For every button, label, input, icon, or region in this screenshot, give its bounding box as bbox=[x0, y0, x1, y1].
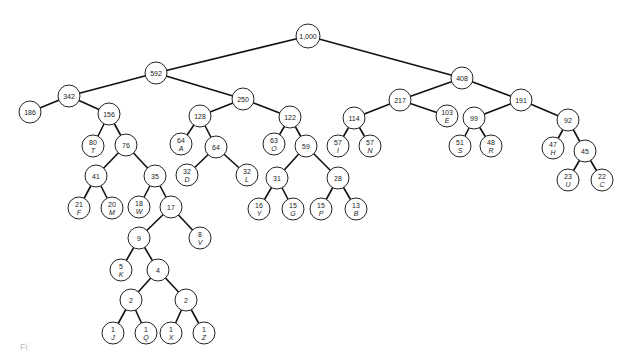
node-weight: 57 bbox=[366, 139, 374, 146]
internal-node: 114 bbox=[343, 107, 365, 129]
node-weight: 156 bbox=[103, 111, 115, 118]
node-weight: 2 bbox=[184, 297, 188, 304]
node-letter: F bbox=[77, 209, 82, 216]
node-weight: 59 bbox=[302, 143, 310, 150]
node-weight: 186 bbox=[24, 109, 36, 116]
leaf-node-G: 15G bbox=[282, 198, 304, 220]
node-letter: J bbox=[110, 334, 115, 341]
internal-node: 592 bbox=[145, 62, 167, 84]
internal-node: 41 bbox=[85, 165, 107, 187]
node-weight: 35 bbox=[151, 173, 159, 180]
tree-edge bbox=[156, 36, 308, 73]
node-letter: I bbox=[337, 147, 339, 154]
node-letter: B bbox=[354, 210, 359, 217]
leaf-node-X: 1X bbox=[160, 322, 182, 344]
internal-node: 59 bbox=[295, 135, 317, 157]
internal-node: 45 bbox=[574, 140, 596, 162]
internal-node: 2 bbox=[120, 289, 142, 311]
node-weight: 22 bbox=[598, 173, 606, 180]
node-weight: 21 bbox=[75, 201, 83, 208]
huffman-tree-diagram: 1,00059240834225021719118615612812211410… bbox=[0, 0, 631, 359]
leaf-node-W: 18W bbox=[128, 196, 150, 218]
node-letter: L bbox=[245, 176, 249, 183]
leaf-node-J: 1J bbox=[102, 322, 124, 344]
node-weight: 250 bbox=[237, 96, 249, 103]
node-weight: 191 bbox=[515, 97, 527, 104]
node-weight: 64 bbox=[212, 144, 220, 151]
node-letter: E bbox=[445, 117, 450, 124]
node-weight: 57 bbox=[334, 139, 342, 146]
node-weight: 114 bbox=[348, 115, 359, 122]
node-weight: 2 bbox=[129, 297, 133, 304]
leaf-node-Y: 16Y bbox=[248, 198, 270, 220]
node-letter: Z bbox=[201, 334, 207, 341]
internal-node: 99 bbox=[463, 107, 485, 129]
leaf-node-D: 32D bbox=[176, 164, 198, 186]
node-letter: M bbox=[109, 209, 115, 216]
node-letter: T bbox=[91, 147, 96, 154]
node-weight: 1 bbox=[202, 326, 206, 333]
node-weight: 92 bbox=[564, 117, 572, 124]
leaf-node-P: 15P bbox=[310, 198, 332, 220]
leaf-node-H: 47H bbox=[542, 137, 564, 159]
leaf-node-Z: 1Z bbox=[193, 322, 215, 344]
tree-nodes: 1,00059240834225021719118615612812211410… bbox=[19, 24, 613, 344]
leaf-node-L: 32L bbox=[236, 164, 258, 186]
node-weight: 1,000 bbox=[299, 33, 317, 40]
node-weight: 28 bbox=[334, 175, 342, 182]
tree-edge bbox=[156, 73, 243, 99]
node-weight: 217 bbox=[394, 97, 406, 104]
internal-node: 408 bbox=[451, 67, 473, 89]
internal-node: 191 bbox=[510, 89, 532, 111]
leaf-node-V: 8V bbox=[189, 227, 211, 249]
node-weight: 23 bbox=[564, 173, 572, 180]
leaf-node-S: 51S bbox=[449, 135, 471, 157]
node-weight: 64 bbox=[177, 137, 185, 144]
leaf-node-K: 5K bbox=[110, 259, 132, 281]
node-weight: 408 bbox=[456, 75, 468, 82]
internal-node: 186 bbox=[19, 101, 41, 123]
node-weight: 342 bbox=[63, 93, 75, 100]
leaf-node-Q: 1Q bbox=[135, 322, 157, 344]
node-weight: 8 bbox=[198, 231, 202, 238]
node-weight: 1 bbox=[111, 326, 115, 333]
leaf-node-I: 57I bbox=[327, 135, 349, 157]
internal-node: 128 bbox=[189, 105, 211, 127]
node-weight: 15 bbox=[317, 202, 325, 209]
node-letter: G bbox=[290, 210, 296, 217]
node-letter: S bbox=[458, 147, 463, 154]
leaf-node-A: 64A bbox=[170, 133, 192, 155]
node-weight: 103 bbox=[441, 109, 453, 116]
node-weight: 1 bbox=[169, 326, 173, 333]
node-letter: A bbox=[178, 145, 184, 152]
internal-node: 2 bbox=[175, 289, 197, 311]
internal-node: 217 bbox=[389, 89, 411, 111]
internal-node: 64 bbox=[205, 136, 227, 158]
node-letter: P bbox=[319, 210, 324, 217]
node-weight: 51 bbox=[456, 139, 464, 146]
internal-node: 4 bbox=[147, 259, 169, 281]
node-weight: 99 bbox=[470, 115, 478, 122]
node-weight: 15 bbox=[289, 202, 297, 209]
internal-node: 92 bbox=[557, 109, 579, 131]
node-weight: 9 bbox=[137, 235, 141, 242]
node-letter: O bbox=[271, 145, 277, 152]
leaf-node-M: 20M bbox=[101, 197, 123, 219]
node-letter: K bbox=[119, 271, 124, 278]
internal-node: 122 bbox=[279, 106, 301, 128]
node-weight: 45 bbox=[581, 148, 589, 155]
node-weight: 128 bbox=[194, 113, 206, 120]
node-weight: 63 bbox=[270, 137, 278, 144]
node-letter: Q bbox=[143, 334, 149, 342]
node-weight: 32 bbox=[243, 168, 251, 175]
internal-node: 250 bbox=[232, 88, 254, 110]
leaf-node-O: 63O bbox=[263, 133, 285, 155]
tree-edge bbox=[308, 36, 462, 78]
node-weight: 4 bbox=[156, 267, 160, 274]
internal-node: 76 bbox=[115, 134, 137, 156]
node-weight: 5 bbox=[119, 263, 123, 270]
internal-node: 342 bbox=[58, 85, 80, 107]
leaf-node-U: 23U bbox=[557, 169, 579, 191]
internal-node: 35 bbox=[144, 165, 166, 187]
leaf-node-T: 80T bbox=[82, 135, 104, 157]
